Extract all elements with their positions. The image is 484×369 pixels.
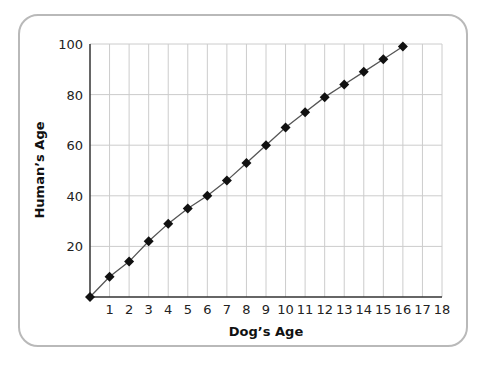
x-tick-label: 15 <box>375 302 392 317</box>
x-tick-label: 1 <box>105 302 113 317</box>
chart-grid <box>90 44 442 297</box>
x-tick-label: 18 <box>434 302 451 317</box>
x-tick-label: 16 <box>395 302 412 317</box>
x-tick-label: 2 <box>125 302 133 317</box>
x-axis-ticks: 123456789101112131415161718 <box>105 302 450 317</box>
y-tick-label: 40 <box>66 189 83 204</box>
y-tick-label: 60 <box>66 138 83 153</box>
x-tick-label: 12 <box>316 302 333 317</box>
data-point-marker <box>378 54 388 64</box>
y-axis-label: Human’s Age <box>32 121 47 218</box>
y-tick-label: 80 <box>66 88 83 103</box>
line-chart: 20406080100 123456789101112131415161718 … <box>0 0 484 369</box>
x-tick-label: 9 <box>262 302 270 317</box>
data-point-marker <box>398 42 408 52</box>
y-tick-label: 20 <box>66 239 83 254</box>
x-tick-label: 10 <box>277 302 294 317</box>
data-point-marker <box>339 79 349 89</box>
x-tick-label: 5 <box>184 302 192 317</box>
x-axis-label: Dog’s Age <box>229 324 304 339</box>
x-tick-label: 7 <box>223 302 231 317</box>
x-tick-label: 14 <box>356 302 373 317</box>
x-tick-label: 11 <box>297 302 314 317</box>
y-tick-label: 100 <box>58 37 83 52</box>
x-tick-label: 6 <box>203 302 211 317</box>
y-axis-ticks: 20406080100 <box>58 37 83 254</box>
data-point-marker <box>359 67 369 77</box>
x-tick-label: 4 <box>164 302 172 317</box>
x-tick-label: 13 <box>336 302 353 317</box>
x-tick-label: 17 <box>414 302 431 317</box>
x-tick-label: 3 <box>145 302 153 317</box>
x-tick-label: 8 <box>242 302 250 317</box>
